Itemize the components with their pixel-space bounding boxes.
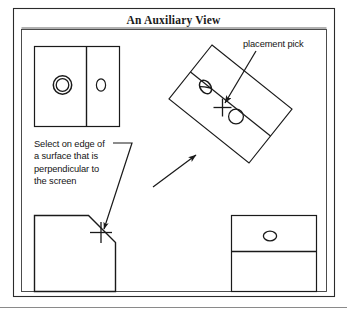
front-view-drawing: [35, 47, 120, 127]
select-edge-note-line-1: Select on edge of: [34, 138, 105, 150]
select-edge-note-line-4: the screen: [34, 175, 105, 187]
auxiliary-view-drawing: [169, 45, 292, 163]
select-edge-note: Select on edge of a surface that is perp…: [34, 138, 105, 188]
side-view-outline: [35, 216, 116, 292]
page-title: An Auxiliary View: [0, 14, 347, 26]
top-view-drawing: [232, 216, 317, 292]
select-edge-leader: [104, 143, 132, 229]
counterbore-inner-circle: [56, 79, 69, 92]
select-edge-note-line-2: a surface that is: [34, 150, 105, 162]
front-view-outline: [35, 47, 120, 127]
auxiliary-view-figure: An Auxiliary View placement pick Select …: [0, 0, 347, 313]
view-direction-arrow: [153, 155, 196, 187]
select-edge-leader-line: [104, 143, 132, 229]
side-view-drawing: [35, 216, 116, 292]
view-direction-arrow-line: [153, 155, 196, 187]
placement-pick-label: placement pick: [243, 38, 304, 50]
top-view-outline: [232, 216, 317, 292]
select-edge-note-line-3: perpendicular to: [34, 163, 105, 175]
